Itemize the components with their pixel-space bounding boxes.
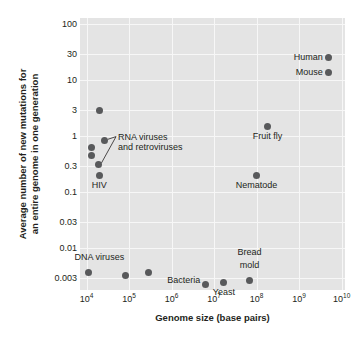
gridline-horizontal-2 xyxy=(80,80,345,81)
annotation-line-2: and retroviruses xyxy=(118,142,183,152)
x-tick-label-4: 108 xyxy=(250,294,264,304)
data-point-dna-virus-2 xyxy=(122,272,129,279)
bread-mold-label-line2: mold xyxy=(240,260,260,270)
plot-area: HIVBacteriaYeastNematodeFruit flyMouseHu… xyxy=(80,18,345,290)
point-label-bacteria: Bacteria xyxy=(167,275,200,285)
data-point-rna-virus-3 xyxy=(88,144,95,151)
x-tick-label-6: 1010 xyxy=(333,294,350,304)
data-point-rna-virus-5 xyxy=(95,161,102,168)
dna-viruses-label: DNA viruses xyxy=(75,252,125,262)
y-tick-label-7: 0.03 xyxy=(59,217,77,226)
y-tick-label-9: 0.003 xyxy=(54,273,77,282)
y-tick-label-4: 1 xyxy=(72,132,77,141)
data-point-yeast xyxy=(220,279,227,286)
gridline-horizontal-5 xyxy=(80,166,345,167)
point-label-fruit-fly: Fruit fly xyxy=(253,131,283,141)
y-tick-label-1: 30 xyxy=(67,49,77,58)
data-point-rna-virus-1 xyxy=(96,107,103,114)
x-tick-label-3: 107 xyxy=(207,294,221,304)
data-point-dna-virus-3 xyxy=(145,269,152,276)
x-tick-label-5: 109 xyxy=(292,294,306,304)
data-point-rna-virus-2 xyxy=(101,137,108,144)
data-point-bacteria xyxy=(202,281,209,288)
data-point-hiv xyxy=(96,172,103,179)
y-tick-label-6: 0.1 xyxy=(64,188,77,197)
y-tick-label-8: 0.01 xyxy=(59,244,77,253)
data-point-fruit-fly xyxy=(264,123,271,130)
x-axis-ticks: 1041051061071081091010 xyxy=(80,294,345,308)
y-axis-title-line-2: an entire genome in one generation xyxy=(29,29,41,279)
x-tick-label-1: 105 xyxy=(122,294,136,304)
y-tick-label-3: 3 xyxy=(72,105,77,114)
gridline-horizontal-3 xyxy=(80,110,345,111)
gridline-horizontal-6 xyxy=(80,192,345,193)
data-point-rna-virus-4 xyxy=(88,152,95,159)
y-tick-label-2: 10 xyxy=(67,76,77,85)
point-label-nematode: Nematode xyxy=(236,180,278,190)
y-axis-title: Average number of new mutations for an e… xyxy=(17,29,41,279)
data-point-nematode xyxy=(253,172,260,179)
y-axis-title-line-1: Average number of new mutations for xyxy=(17,29,29,279)
bread-mold-label-line1: Bread xyxy=(237,247,261,257)
data-point-bread-mold xyxy=(246,277,253,284)
x-tick-label-2: 106 xyxy=(165,294,179,304)
point-label-human: Human xyxy=(294,52,323,62)
gridline-horizontal-7 xyxy=(80,222,345,223)
gridline-horizontal-8 xyxy=(80,248,345,249)
y-tick-label-0: 100 xyxy=(62,20,77,29)
point-label-hiv: HIV xyxy=(92,180,107,190)
x-axis-title: Genome size (base pairs) xyxy=(80,312,345,323)
annotation-line-1: RNA viruses xyxy=(118,132,168,142)
y-axis-ticks: 1003010310.30.10.030.010.003 xyxy=(36,18,77,290)
data-point-mouse xyxy=(325,69,332,76)
point-label-mouse: Mouse xyxy=(296,67,323,77)
gridline-horizontal-9 xyxy=(80,278,345,279)
x-tick-label-0: 104 xyxy=(80,294,94,304)
rna-viruses-annotation: RNA viruses and retroviruses xyxy=(118,132,183,153)
data-point-dna-virus-1 xyxy=(85,269,92,276)
mutation-rate-scatter-chart: HIVBacteriaYeastNematodeFruit flyMouseHu… xyxy=(0,0,362,339)
gridline-horizontal-0 xyxy=(80,24,345,25)
y-tick-label-5: 0.3 xyxy=(64,161,77,170)
data-point-human xyxy=(325,54,332,61)
